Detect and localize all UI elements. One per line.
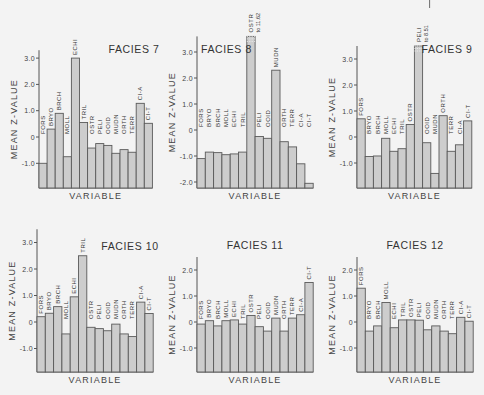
bar-terr — [448, 334, 456, 372]
y-tick-label: -1.0 — [180, 153, 193, 160]
chart-svg: -2.0-1.001.02.03.0MEAN Z-VALUEVARIABLEFO… — [160, 0, 330, 200]
bar-label: CI-T — [145, 107, 151, 121]
y-tick-label: -1.0 — [180, 345, 193, 352]
bar-label: BRYO — [46, 291, 52, 310]
bar-label: ORTH — [441, 300, 447, 319]
bar-ci-a — [136, 103, 144, 188]
x-axis-title: VARIABLE — [69, 375, 122, 385]
bar-bryo — [47, 129, 55, 188]
bar-ostr — [88, 148, 96, 188]
bar-label: FORS — [198, 108, 204, 127]
bar-label: MOLL — [223, 108, 229, 127]
bar-tril — [398, 149, 406, 188]
bar-label: TRIL — [240, 304, 246, 319]
bar-moll — [222, 321, 230, 372]
bar-label: MUDN — [113, 299, 119, 319]
bar-peli — [414, 46, 422, 188]
bar-fors — [197, 159, 205, 188]
chart-title: FACIES 12 — [386, 239, 443, 251]
bar-label: FORS — [40, 115, 46, 134]
bar-fors — [39, 163, 47, 188]
bar-label: CI-A — [298, 298, 304, 312]
bar-fors — [357, 119, 365, 188]
bar-moll — [63, 157, 71, 188]
chart-svg: -1.001.02.03.0MEAN Z-VALUEVARIABLEFORSBR… — [0, 0, 165, 200]
bar-label: BRYO — [206, 108, 212, 127]
bar-moll — [382, 303, 390, 373]
x-axis-title: VARIABLE — [389, 375, 442, 385]
bar-ci-t — [145, 314, 153, 372]
bar-label: MUDN — [113, 114, 119, 134]
bar-terr — [288, 318, 296, 372]
bar-label: FORS — [198, 300, 204, 319]
bar-orth — [280, 331, 288, 372]
truncation-annotation: to 8.51 — [423, 25, 429, 42]
facies-panel-7: -1.001.02.03.0MEAN Z-VALUEVARIABLEFORSBR… — [0, 0, 165, 200]
bar-mudn — [432, 326, 440, 372]
bar-label: BRCH — [215, 108, 221, 127]
bar-mudn — [431, 173, 439, 188]
bar-label: ECHI — [72, 39, 78, 55]
y-tick-label: 2.0 — [342, 82, 353, 89]
y-tick-label: 2.0 — [24, 81, 35, 88]
facies-panel-12: -1.001.02.0MEAN Z-VALUEVARIABLEFORSBRYOB… — [320, 200, 484, 395]
bar-moll — [382, 138, 390, 188]
bar-label: TRIL — [399, 119, 405, 134]
bar-label: TERR — [129, 301, 135, 320]
bar-label: OOID — [265, 109, 271, 127]
bar-brch — [374, 326, 382, 372]
bar-fors — [357, 288, 365, 372]
chart-svg: -1.001.02.03.0MEAN Z-VALUEVARIABLEFORSBR… — [0, 200, 165, 395]
bar-label: TERR — [448, 116, 454, 135]
bar-moll — [62, 334, 70, 372]
bar-label: MOLL — [223, 299, 229, 318]
bar-ostr — [406, 125, 414, 188]
bar-mudn — [272, 70, 280, 188]
y-tick-label: -2.0 — [180, 179, 193, 186]
bar-ooid — [263, 331, 271, 372]
bar-label: TRIL — [240, 112, 246, 127]
y-tick-label: 3.0 — [22, 239, 33, 246]
bar-label: TERR — [449, 301, 455, 320]
bar-mudn — [272, 318, 280, 372]
bar-ci-t — [144, 123, 152, 188]
bar-ci-a — [297, 315, 305, 372]
bar-orth — [440, 331, 448, 372]
bar-peli — [96, 144, 104, 188]
facies-panel-9: -1.001.02.03.0MEAN Z-VALUEVARIABLEFORSBR… — [320, 0, 484, 200]
chart-title: FACIES 10 — [101, 240, 158, 252]
y-tick-label: 1.0 — [342, 108, 353, 115]
bar-label: BRYO — [48, 107, 54, 126]
y-tick-label: 1.0 — [22, 292, 33, 299]
bar-label: CI-T — [306, 266, 312, 280]
bar-label: TRIL — [80, 238, 86, 253]
bar-ci-t — [465, 321, 473, 372]
bar-peli — [255, 327, 263, 372]
bar-label: PELI — [97, 119, 103, 134]
bar-ooid — [263, 138, 271, 188]
bar-tril — [80, 123, 88, 188]
y-tick-label: -1.0 — [22, 160, 35, 167]
bar-label: MOLL — [383, 115, 389, 134]
bar-label: CI-A — [298, 113, 304, 127]
bar-peli — [255, 137, 263, 189]
bar-label: MUDN — [273, 295, 279, 315]
bar-tril — [79, 256, 87, 372]
bar-ostr — [247, 316, 255, 373]
y-tick-label: 1.0 — [342, 293, 353, 300]
bar-fors — [37, 317, 45, 372]
bar-label: OOID — [105, 116, 111, 134]
y-tick-label: -1.0 — [340, 345, 353, 352]
bar-terr — [128, 337, 136, 372]
y-tick-label: 2.0 — [22, 266, 33, 273]
bar-label: MUDN — [273, 47, 279, 67]
bar-label: BRYO — [366, 115, 372, 134]
bar-label: PELI — [416, 27, 422, 42]
chart-title: FACIES 7 — [109, 43, 160, 55]
bar-label: OOID — [424, 116, 430, 134]
y-tick-label: 1.0 — [182, 101, 193, 108]
y-tick-label: 2.0 — [182, 75, 193, 82]
y-tick-label: 0 — [349, 134, 353, 141]
y-tick-label: 2.0 — [182, 267, 193, 274]
bar-label: MUDN — [432, 114, 438, 134]
